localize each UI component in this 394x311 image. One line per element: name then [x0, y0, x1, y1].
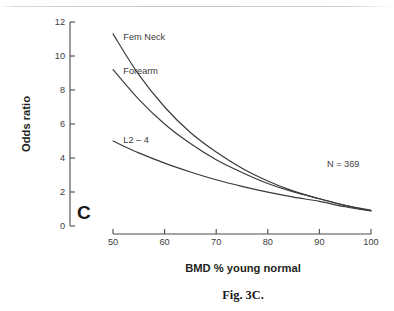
y-tick-label: 6 — [60, 119, 65, 129]
x-tick-label: 80 — [263, 237, 273, 247]
series-inline-label: L2 – 4 — [123, 135, 149, 145]
y-axis-title: Odds ratio — [20, 96, 32, 152]
figure-container: 024681012 5060708090100 Fem NeckForearmL… — [0, 0, 394, 311]
series-curve — [113, 141, 371, 211]
y-tick-label: 2 — [60, 187, 65, 197]
figure-caption: Fig. 3C. — [222, 288, 264, 302]
x-tick-label: 70 — [211, 237, 221, 247]
y-tick-label: 0 — [60, 221, 65, 231]
sample-size-annotation: N = 369 — [327, 159, 359, 169]
series-inline-label: Forearm — [123, 66, 158, 76]
y-tick-label: 4 — [60, 153, 65, 163]
x-tick-label: 100 — [363, 237, 378, 247]
y-tick-label: 12 — [55, 17, 65, 27]
panel-letter-c: C — [77, 202, 91, 223]
x-tick-label: 90 — [314, 237, 324, 247]
chart-series-group — [113, 34, 371, 211]
y-axis-ticks: 024681012 — [55, 17, 75, 231]
series-curve — [113, 70, 371, 211]
x-axis-title: BMD % young normal — [185, 262, 301, 274]
x-axis-ticks: 5060708090100 — [108, 229, 379, 247]
chart-canvas: 024681012 5060708090100 Fem NeckForearmL… — [0, 0, 394, 311]
x-tick-label: 60 — [159, 237, 169, 247]
series-inline-label: Fem Neck — [123, 32, 165, 42]
x-tick-label: 50 — [108, 237, 118, 247]
series-curve — [113, 34, 371, 211]
y-tick-label: 10 — [55, 51, 65, 61]
y-tick-label: 8 — [60, 85, 65, 95]
